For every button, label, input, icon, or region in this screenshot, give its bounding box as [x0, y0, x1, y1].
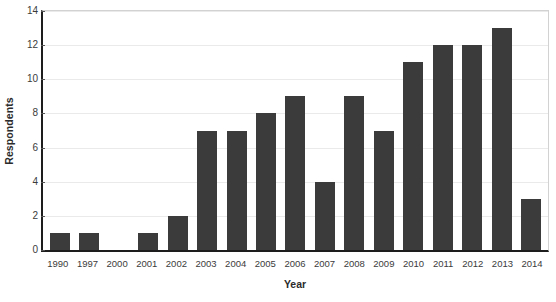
bar-slot — [163, 11, 192, 250]
x-tick-label: 2003 — [191, 256, 221, 272]
y-tick-label: 8 — [18, 107, 38, 119]
y-tick-mark — [41, 182, 45, 183]
y-tick-label: 2 — [18, 210, 38, 222]
x-tick-label: 2013 — [488, 256, 518, 272]
bar-slot — [487, 11, 516, 250]
bar-slot — [133, 11, 162, 250]
y-tick-mark — [41, 216, 45, 217]
x-tick-label: 2010 — [399, 256, 429, 272]
bar-slot — [340, 11, 369, 250]
y-axis-title: Respondents — [0, 0, 18, 262]
bar-slot — [251, 11, 280, 250]
bar — [138, 233, 158, 250]
x-tick-label: 2005 — [250, 256, 280, 272]
bar-slot — [281, 11, 310, 250]
x-tick-label: 2009 — [369, 256, 399, 272]
bar — [285, 96, 305, 250]
bar-slot — [517, 11, 546, 250]
x-tick-label: 1997 — [73, 256, 103, 272]
bar-slot — [192, 11, 221, 250]
x-axis-tick-labels: 1990199720002001200220032004200520062007… — [41, 256, 549, 272]
x-tick-label: 1990 — [43, 256, 73, 272]
y-tick-mark — [41, 148, 45, 149]
x-tick-label: 2001 — [132, 256, 162, 272]
bar-slot — [74, 11, 103, 250]
bar-series — [43, 11, 548, 250]
bar — [403, 62, 423, 250]
bar — [521, 199, 541, 250]
plot-area — [41, 10, 549, 252]
bar-slot — [104, 11, 133, 250]
bar — [197, 131, 217, 251]
x-tick-label: 2006 — [280, 256, 310, 272]
y-tick-mark — [41, 250, 45, 251]
bar-slot — [399, 11, 428, 250]
bar — [462, 45, 482, 250]
bar-slot — [222, 11, 251, 250]
bar — [315, 182, 335, 250]
x-tick-label: 2014 — [517, 256, 547, 272]
x-tick-label: 2011 — [428, 256, 458, 272]
bar — [168, 216, 188, 250]
y-tick-label: 12 — [18, 39, 38, 51]
y-tick-label: 6 — [18, 142, 38, 154]
bar-chart: Respondents 02468101214 1990199720002001… — [0, 0, 556, 302]
bar — [256, 113, 276, 250]
y-tick-label: 0 — [18, 244, 38, 256]
x-tick-label: 2002 — [162, 256, 192, 272]
bar-slot — [428, 11, 457, 250]
x-tick-label: 2012 — [458, 256, 488, 272]
bar — [79, 233, 99, 250]
y-tick-mark — [41, 113, 45, 114]
bar — [433, 45, 453, 250]
x-tick-label: 2000 — [102, 256, 132, 272]
bar-slot — [310, 11, 339, 250]
y-tick-mark — [41, 11, 45, 12]
x-tick-label: 2007 — [310, 256, 340, 272]
bar — [344, 96, 364, 250]
x-tick-label: 2004 — [221, 256, 251, 272]
x-tick-label: 2008 — [339, 256, 369, 272]
x-axis-title: Year — [41, 278, 549, 290]
bar — [374, 131, 394, 251]
y-tick-label: 10 — [18, 73, 38, 85]
bar-slot — [45, 11, 74, 250]
bar — [492, 28, 512, 250]
bar-slot — [369, 11, 398, 250]
y-tick-label: 14 — [18, 5, 38, 17]
y-axis-tick-labels: 02468101214 — [18, 4, 38, 256]
bar — [227, 131, 247, 251]
bar — [50, 233, 70, 250]
y-tick-mark — [41, 79, 45, 80]
bar-slot — [458, 11, 487, 250]
y-axis-title-label: Respondents — [3, 97, 15, 165]
y-tick-mark — [41, 45, 45, 46]
y-tick-label: 4 — [18, 176, 38, 188]
